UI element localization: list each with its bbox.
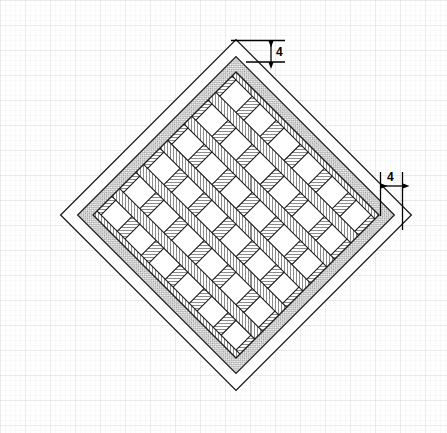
technical-drawing-canvas: 4 4 [0,0,447,433]
dimension-label-top: 4 [276,45,283,59]
dimension-label-right: 4 [387,170,394,184]
lattice-diamond-drawing: 4 4 [0,0,447,433]
